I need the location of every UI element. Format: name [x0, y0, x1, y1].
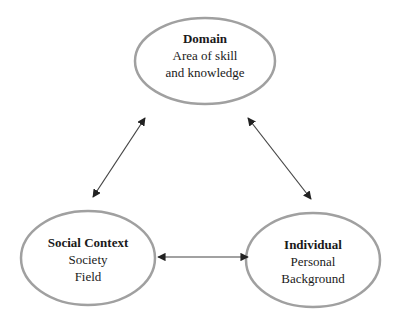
individual-line-1: Personal	[248, 253, 378, 270]
individual-line-2: Background	[248, 270, 378, 287]
domain-title: Domain	[140, 30, 270, 47]
domain-label: Domain Area of skill and knowledge	[140, 30, 270, 81]
domain-line-1: Area of skill	[140, 47, 270, 64]
domain-line-2: and knowledge	[140, 64, 270, 81]
social-context-line-2: Field	[23, 268, 153, 285]
individual-title: Individual	[248, 236, 378, 253]
individual-label: Individual Personal Background	[248, 236, 378, 287]
social-context-label: Social Context Society Field	[23, 234, 153, 285]
arrow-domain-individual	[248, 118, 311, 199]
arrow-domain-social	[93, 118, 145, 197]
social-context-line-1: Society	[23, 251, 153, 268]
social-context-title: Social Context	[23, 234, 153, 251]
